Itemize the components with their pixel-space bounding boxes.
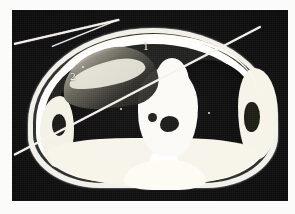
annotation-marker-2: 2 <box>70 71 76 82</box>
vignette-overlay <box>12 10 288 201</box>
annotation-marker-1: 1 <box>143 41 149 52</box>
ct-image-plate: 1 2 <box>12 10 288 201</box>
ct-scan-figure: 1 2 <box>0 0 295 214</box>
